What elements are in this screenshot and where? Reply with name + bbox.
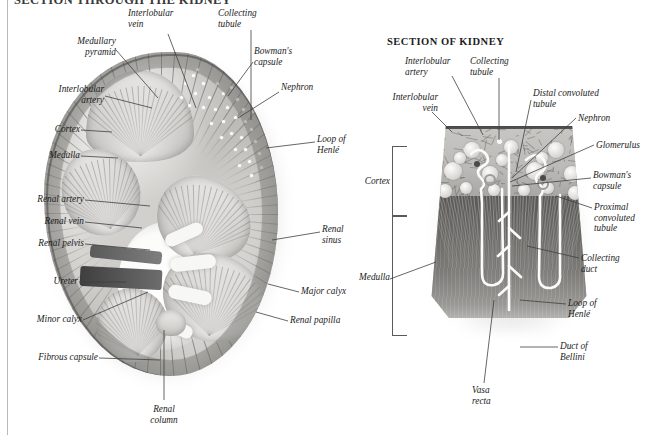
right-figure-title: SECTION OF KIDNEY [387, 36, 504, 47]
label-ureter: Ureter [16, 276, 78, 287]
label-fibrous-capsule: Fibrous capsule [2, 352, 98, 363]
label-renal-column: Renal column [137, 404, 191, 425]
label-collecting-tubule: Collecting tubule [218, 8, 290, 29]
label-medullary-pyramid: Medullary pyramid [38, 36, 116, 57]
label-renal-pelvis: Renal pelvis [4, 238, 84, 249]
rlabel-duct-of-bellini: Duct of Bellini [560, 341, 616, 362]
rlabel-medulla: Medulla [340, 272, 390, 283]
label-cortex: Cortex [22, 124, 80, 135]
rlabel-loop-of-henle: Loop of Henlé [568, 298, 624, 319]
label-renal-sinus: Renal sinus [322, 224, 372, 245]
header-title: SECTION THROUGH THE KIDNEY [14, 0, 231, 8]
cortex-bracket [392, 146, 407, 216]
label-renal-vein: Renal vein [10, 216, 84, 227]
wedge-body [430, 120, 588, 320]
rlabel-collecting-tubule: Collecting tubule [470, 56, 536, 77]
page-margin-rule [7, 0, 8, 435]
label-renal-artery: Renal artery [10, 194, 84, 205]
rlabel-collecting-duct: Collecting duct [581, 253, 643, 274]
rlabel-cortex: Cortex [344, 176, 390, 187]
nephron-tubules [430, 120, 588, 320]
right-kidney-wedge-illustration [430, 120, 590, 335]
label-nephron: Nephron [281, 82, 341, 93]
rlabel-nephron: Nephron [578, 113, 640, 124]
label-interlobular-vein: Interlobular vein [128, 8, 214, 29]
label-loop-of-henle: Loop of Henlé [317, 134, 373, 155]
illustration-page: SECTION THROUGH THE KIDNEY Med [0, 0, 654, 435]
label-major-calyx: Major calyx [301, 286, 377, 297]
rlabel-proximal-convoluted-tubule: Proximal convoluted tubule [594, 202, 654, 234]
rlabel-vasa-recta: Vasa recta [472, 385, 516, 406]
rlabel-glomerulus: Glomerulus [596, 140, 654, 151]
rlabel-bowmans-capsule: Bowman's capsule [593, 170, 653, 191]
label-medulla: Medulla [18, 150, 80, 161]
rlabel-interlobular-vein: Interlobular vein [356, 92, 438, 113]
label-interlobular-artery: Interlobular artery [20, 84, 104, 105]
rlabel-distal-convoluted-tubule: Distal convoluted tubule [533, 88, 645, 109]
label-renal-papilla: Renal papilla [290, 315, 374, 326]
medulla-bracket [392, 216, 407, 336]
label-minor-calyx: Minor calyx [2, 314, 82, 325]
label-bowmans-capsule: Bowman's capsule [254, 46, 324, 67]
